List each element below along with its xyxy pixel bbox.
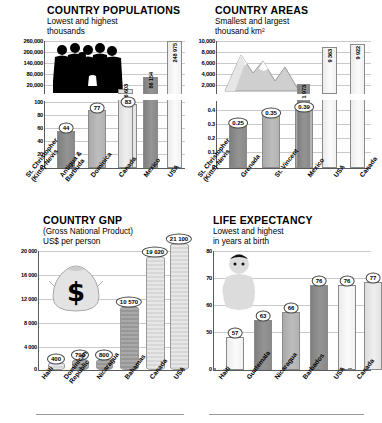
y-tick: 0 xyxy=(209,366,212,372)
y-tick: 260,000 xyxy=(23,38,43,44)
chart-subtitle-1: Lowest and highest xyxy=(213,227,284,236)
bar-value-antigua: 77 xyxy=(90,103,105,114)
y-tick: 60 xyxy=(37,125,43,131)
chart-title: COUNTRY GNP xyxy=(43,215,122,226)
chart-subtitle-2: thousands xyxy=(47,27,85,36)
svg-text:$: $ xyxy=(67,277,85,307)
bar-value-guatemala: 63 xyxy=(256,311,271,322)
chart-subtitle-1: Smallest and largest xyxy=(215,17,289,26)
bar-value-usa: 248 975 xyxy=(172,43,178,63)
bar-canada xyxy=(146,256,165,370)
divider xyxy=(36,414,184,415)
bar-value-canada: 77 xyxy=(366,273,381,284)
bar-value-bahamas: 10 570 xyxy=(116,297,142,308)
y-tick: 20,000 xyxy=(26,82,43,88)
y-tick: 6,000 xyxy=(201,60,215,66)
bar-value-st-vincent: 0.39 xyxy=(294,102,314,113)
chart-country-gnp: COUNTRY GNP (Gross National Product) US$… xyxy=(0,212,189,423)
bar-haiti xyxy=(226,337,244,370)
y-tick: 8,000 xyxy=(201,49,215,55)
divider xyxy=(209,414,364,415)
chart-life-expectancy: LIFE EXPECTANCY Lowest and highest in ye… xyxy=(189,212,378,423)
y-tick: 8 000 xyxy=(24,320,37,326)
chart-subtitle-2: thousand km² xyxy=(215,27,265,36)
bar-usa xyxy=(170,243,189,370)
bar-value-haiti: 57 xyxy=(228,328,243,339)
mountain-range-icon xyxy=(223,47,301,93)
money-bag-dollar-icon: $ xyxy=(45,255,107,317)
bar-usa xyxy=(338,285,356,370)
y-tick: 80 xyxy=(37,112,43,118)
bar-grenada xyxy=(262,114,280,168)
chart-title: COUNTRY POPULATIONS xyxy=(47,5,180,16)
bar-value-mexico: 1 973 xyxy=(301,85,307,99)
chart-subtitle-1: Lowest and highest xyxy=(47,17,118,26)
y-tick: 0 xyxy=(34,366,37,372)
chart-title: LIFE EXPECTANCY xyxy=(213,215,313,226)
chart-country-areas: COUNTRY AREAS Smallest and largest thous… xyxy=(189,0,378,212)
chart-subtitle-2: in years at birth xyxy=(213,237,269,246)
y-tick: 0.3 xyxy=(208,121,215,127)
y-tick: 100 xyxy=(34,99,43,105)
y-tick: 4 000 xyxy=(24,344,37,350)
y-tick: 200,000 xyxy=(23,49,43,55)
chart-title: COUNTRY AREAS xyxy=(215,5,308,16)
bar-value-barbados: 76 xyxy=(312,276,327,287)
chart-subtitle-2: US$ per person xyxy=(43,237,100,246)
y-tick: 80 xyxy=(206,248,212,254)
chart-country-populations: COUNTRY POPULATIONS Lowest and highest t… xyxy=(0,0,189,212)
y-tick: 2,000 xyxy=(201,82,215,88)
y-tick: 140,000 xyxy=(23,60,43,66)
y-tick: 80,000 xyxy=(26,71,43,77)
lower-axis-region: 100 80 60 40 20 0 44 77 83 xyxy=(44,101,185,169)
bar-value-usa: 76 xyxy=(340,276,355,287)
y-tick: 10,000 xyxy=(198,38,215,44)
y-tick: 40 xyxy=(37,138,43,144)
upper-axis-region: 260,000 200,000 140,000 80,000 20,000 xyxy=(44,41,185,94)
bar-canada xyxy=(364,282,382,370)
y-tick: 50 xyxy=(206,329,212,335)
bar-value-canada: 19 020 xyxy=(142,247,168,258)
bar-value-grenada: 0.35 xyxy=(261,108,281,119)
bar-value-mexico: 86 154 xyxy=(148,72,154,89)
upper-axis-region: 10,000 8,000 6,000 4,000 2,000 1 973 9 3… xyxy=(216,41,371,94)
chart-subtitle-1: (Gross National Product) xyxy=(43,227,133,236)
y-tick: 70 xyxy=(206,275,212,281)
bar-value-canada: 9 922 xyxy=(355,46,361,60)
y-tick: 0.4 xyxy=(208,107,215,113)
y-tick: 4,000 xyxy=(201,71,215,77)
bar-value-haiti: 400 xyxy=(47,354,65,365)
bar-value-dominica: 83 xyxy=(121,97,136,108)
bar-value-st-christopher: 0.25 xyxy=(228,118,248,129)
y-tick: 16 000 xyxy=(21,272,37,278)
y-tick: 12 000 xyxy=(21,296,37,302)
y-tick: 20 000 xyxy=(21,248,37,254)
y-tick: 0.2 xyxy=(208,135,215,141)
bar-value-usa: 9 363 xyxy=(327,49,333,63)
crowd-of-people-icon xyxy=(53,43,125,94)
bar-value-nicaragua: 66 xyxy=(284,303,299,314)
bar-value-st-christopher: 44 xyxy=(59,123,74,134)
y-tick: 60 xyxy=(206,302,212,308)
